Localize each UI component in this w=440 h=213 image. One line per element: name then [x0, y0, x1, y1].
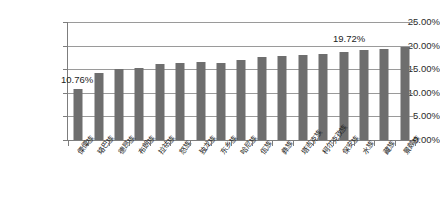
x-tick-mark-16 — [395, 141, 396, 146]
x-tick-mark-11 — [293, 141, 294, 146]
bar[interactable] — [217, 63, 226, 140]
bar[interactable] — [94, 73, 103, 140]
x-tick-mark-14 — [354, 141, 355, 146]
bar[interactable] — [278, 56, 287, 140]
bar-slot — [190, 22, 210, 140]
last-value-label: 19.72% — [333, 33, 365, 44]
bar-slot — [150, 22, 170, 140]
bar[interactable] — [155, 64, 164, 140]
x-tick-mark-13 — [333, 141, 334, 146]
bar[interactable] — [400, 47, 409, 140]
x-tick-mark-7 — [211, 141, 212, 146]
bar-slot — [313, 22, 333, 140]
bar-slot — [374, 22, 394, 140]
x-tick-mark-4 — [150, 141, 151, 146]
bar-slot — [109, 22, 129, 140]
bar-slot — [272, 22, 292, 140]
x-tick-mark-10 — [272, 141, 273, 146]
bar[interactable] — [135, 68, 144, 140]
bar[interactable] — [380, 49, 389, 140]
bar-chart: 0.00%5.00%10.00%15.00%20.00%25.00% 傈僳族珞巴… — [0, 0, 440, 213]
bar-slot — [170, 22, 190, 140]
y-tick-mark-5 — [63, 22, 67, 23]
y-tick-mark-0 — [63, 140, 67, 141]
x-tick-mark-3 — [129, 141, 130, 146]
bar-slot — [395, 22, 415, 140]
bar[interactable] — [257, 57, 266, 140]
bar[interactable] — [237, 60, 246, 140]
x-tick-mark-end — [415, 141, 416, 146]
x-tick-mark-1 — [88, 141, 89, 146]
x-tick-mark-2 — [109, 141, 110, 146]
y-tick-mark-3 — [63, 69, 67, 70]
bar[interactable] — [359, 50, 368, 140]
bar[interactable] — [298, 55, 307, 140]
first-value-label: 10.76% — [61, 74, 93, 85]
bar[interactable] — [115, 69, 124, 140]
y-tick-mark-2 — [63, 93, 67, 94]
bar-slot — [211, 22, 231, 140]
bar-slot — [293, 22, 313, 140]
x-tick-mark-6 — [190, 141, 191, 146]
x-tick-mark-8 — [231, 141, 232, 146]
bar[interactable] — [196, 62, 205, 140]
y-tick-mark-4 — [63, 46, 67, 47]
bar[interactable] — [74, 89, 83, 140]
x-tick-mark-0 — [68, 141, 69, 146]
x-tick-mark-9 — [252, 141, 253, 146]
bar-slot — [231, 22, 251, 140]
bar[interactable] — [319, 54, 328, 140]
x-tick-mark-5 — [170, 141, 171, 146]
bar-slot — [129, 22, 149, 140]
bar-slot — [252, 22, 272, 140]
x-tick-mark-12 — [313, 141, 314, 146]
x-tick-mark-15 — [374, 141, 375, 146]
bar[interactable] — [176, 63, 185, 140]
y-tick-mark-1 — [63, 116, 67, 117]
